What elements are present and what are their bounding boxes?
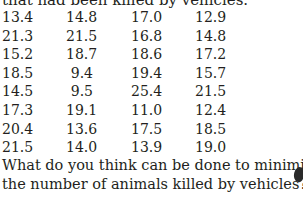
- question-line-2: the number of animals killed by vehicles…: [2, 175, 303, 194]
- table-cell: 20.4: [2, 120, 29, 139]
- table-cell: 12.9: [195, 8, 222, 27]
- table-cell: 18.5: [2, 64, 29, 83]
- table-cell: 16.8: [131, 27, 158, 46]
- table-cell: 14.0: [66, 138, 93, 157]
- table-cell: 14.5: [2, 82, 29, 101]
- table-cell: 13.9: [131, 138, 158, 157]
- table-cell: 11.0: [131, 101, 158, 120]
- table-cell: 15.2: [2, 45, 29, 64]
- table-cell: 17.2: [195, 45, 222, 64]
- table-cell: 9.5: [66, 82, 93, 101]
- table-cell: 21.5: [2, 138, 29, 157]
- table-cell: 21.5: [195, 82, 222, 101]
- table-cell: 18.6: [131, 45, 158, 64]
- table-cell: 21.5: [66, 27, 93, 46]
- table-cell: 17.3: [2, 101, 29, 120]
- table-cell: 13.4: [2, 8, 29, 27]
- table-cell: 18.5: [195, 120, 222, 139]
- table-cell: 19.1: [66, 101, 93, 120]
- table-cell: 17.5: [131, 120, 158, 139]
- table-cell: 13.6: [66, 120, 93, 139]
- table-cell: 25.4: [131, 82, 158, 101]
- table-cell: 9.4: [66, 64, 93, 83]
- table-cell: 18.7: [66, 45, 93, 64]
- question-text: What do you think can be done to minimiz…: [2, 156, 303, 194]
- table-cell: 14.8: [66, 8, 93, 27]
- table-cell: 12.4: [195, 101, 222, 120]
- table-cell: 15.7: [195, 64, 222, 83]
- table-cell: 21.3: [2, 27, 29, 46]
- table-cell: 19.4: [131, 64, 158, 83]
- table-cell: 14.8: [195, 27, 222, 46]
- question-line-1: What do you think can be done to minimiz…: [2, 156, 303, 175]
- table-cell: 19.0: [195, 138, 222, 157]
- table-cell: 17.0: [131, 8, 158, 27]
